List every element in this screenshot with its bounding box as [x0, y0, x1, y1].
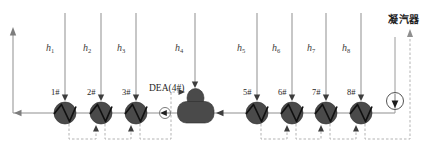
heater-label-2: 2#: [87, 88, 96, 97]
h2-subscript: 2: [88, 47, 91, 54]
extraction-label-h4: h4: [175, 43, 183, 55]
h5-subscript: 5: [242, 47, 245, 54]
heater-label-5: 5#: [243, 88, 252, 97]
heater-label-8: 8#: [347, 88, 356, 97]
heater-2-symbol: [90, 102, 112, 124]
drain-arrow-to-condenser-icon: [407, 29, 413, 37]
drain-arrow-into-7-icon: [318, 125, 324, 132]
extraction-label-h6: h6: [272, 43, 280, 55]
h4-subscript: 4: [180, 47, 183, 54]
extraction-label-h8: h8: [342, 43, 350, 55]
feedwater-arrow-into-deaerator-icon: [216, 110, 224, 117]
steam-arrow-h1-icon: [62, 95, 68, 102]
boiler-outlet-arrow-up-icon: [10, 27, 16, 36]
drain-1-to-2: [69, 124, 96, 139]
drain-2-to-3: [105, 124, 131, 139]
h3-subscript: 3: [122, 47, 125, 54]
extraction-label-h7: h7: [307, 43, 315, 55]
deaerator-label: DEA(4#): [149, 84, 184, 94]
drain-arrow-into-6-icon: [284, 125, 290, 132]
extraction-label-h2: h2: [83, 43, 91, 55]
heater-5-symbol: [246, 102, 268, 124]
extraction-label-h5: h5: [237, 43, 245, 55]
drain-5-to-6: [261, 124, 287, 139]
heater-1-symbol: [54, 102, 76, 124]
deaerator-vessel-symbol: [178, 89, 215, 124]
drain-arrow-into-8-icon: [353, 125, 359, 132]
h6-subscript: 6: [277, 47, 280, 54]
h7-subscript: 7: [312, 47, 315, 54]
steam-arrow-h3-icon: [133, 95, 139, 102]
heater-label-7: 7#: [312, 88, 321, 97]
heater-6-symbol: [281, 102, 303, 124]
steam-arrow-h4-icon: [192, 82, 198, 89]
drain-arrow-into-2-icon: [93, 125, 99, 132]
drain-7-to-8: [330, 124, 356, 139]
steam-arrow-h7-icon: [323, 95, 329, 102]
steam-arrow-h6-icon: [289, 95, 295, 102]
h8-subscript: 8: [347, 47, 350, 54]
diagram-canvas: [0, 0, 429, 149]
drain-6-to-7: [296, 124, 321, 139]
steam-arrow-h5-icon: [254, 95, 260, 102]
drain-8-to-condenser: [365, 37, 410, 139]
condenser-label: 凝汽器: [388, 15, 420, 25]
heater-3-symbol: [125, 102, 147, 124]
heater-label-1: 1#: [51, 88, 60, 97]
h1-subscript: 1: [51, 47, 54, 54]
steam-arrow-h2-icon: [98, 95, 104, 102]
condensate-pump-symbol: [387, 93, 404, 110]
heater-8-symbol: [350, 102, 372, 124]
feedwater-left-arrow-icon: [14, 110, 22, 116]
drain-arrow-into-3-icon: [128, 125, 134, 132]
steam-arrow-h8-icon: [358, 95, 364, 102]
heater-label-6: 6#: [278, 88, 287, 97]
heater-label-3: 3#: [122, 88, 131, 97]
feedwater-pump-symbol: [160, 108, 171, 119]
extraction-label-h3: h3: [117, 43, 125, 55]
heater-7-symbol: [315, 102, 337, 124]
feedwater-heater-system-diagram: h1 h2 h3 h4 h5 h6 h7 h8 1# 2# 3# 5# 6# 7…: [0, 0, 429, 149]
extraction-label-h1: h1: [46, 43, 54, 55]
